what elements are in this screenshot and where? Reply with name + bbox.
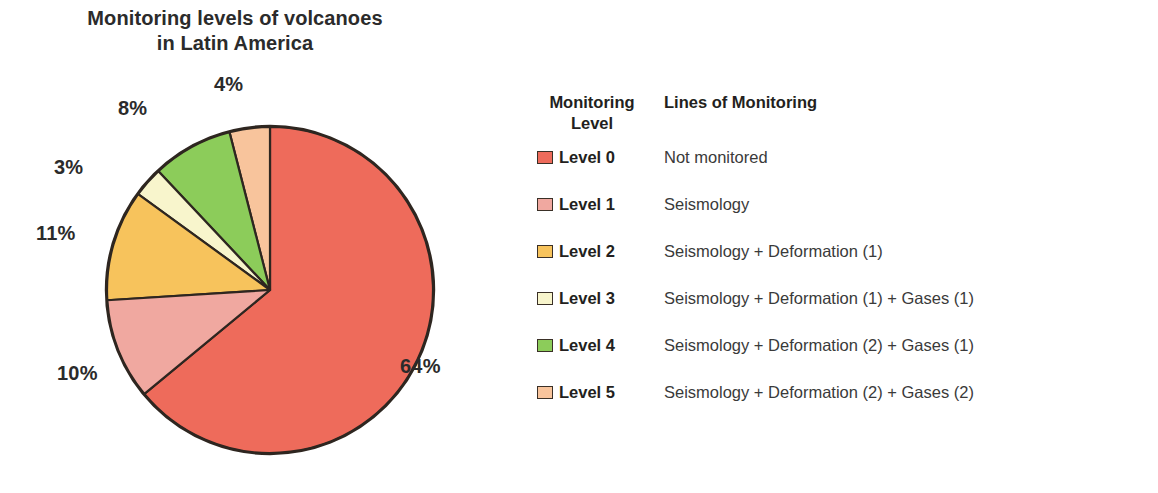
pie-label-level-4: 8%	[118, 97, 147, 120]
legend-level-description: Seismology + Deformation (1) + Gases (1)	[664, 289, 974, 308]
title-line-1: Monitoring levels of volcanoes	[0, 6, 470, 31]
legend-level-label: Level 4	[559, 336, 651, 355]
pie-label-level-0: 64%	[400, 355, 441, 378]
title-line-2: in Latin America	[0, 31, 470, 56]
pie-label-level-1: 10%	[57, 362, 98, 385]
legend-level-description: Seismology + Deformation (2) + Gases (2)	[664, 383, 974, 402]
legend-level-description: Seismology	[664, 195, 749, 214]
legend-level-label: Level 1	[559, 195, 651, 214]
legend-swatch-icon	[537, 198, 553, 211]
pie-label-level-2: 11%	[36, 222, 76, 245]
legend-header-level-line-1: Monitoring	[533, 92, 651, 113]
pie-slice-group	[107, 127, 433, 453]
legend-row[interactable]: Level 5Seismology + Deformation (2) + Ga…	[533, 383, 1143, 430]
legend-row-list: Level 0Not monitoredLevel 1SeismologyLev…	[533, 148, 1143, 430]
pie-label-level-3: 3%	[54, 156, 83, 179]
legend-swatch-icon	[537, 245, 553, 258]
page-title: Monitoring levels of volcanoes in Latin …	[0, 6, 470, 56]
legend-level-description: Seismology + Deformation (1)	[664, 242, 883, 261]
legend-level-label: Level 5	[559, 383, 651, 402]
legend-header-monitoring-level: Monitoring Level	[533, 92, 651, 134]
pie-label-level-5: 4%	[214, 73, 243, 96]
legend-row[interactable]: Level 0Not monitored	[533, 148, 1143, 195]
legend-swatch-icon	[537, 339, 553, 352]
pie-chart-svg	[103, 123, 437, 457]
legend-row[interactable]: Level 4Seismology + Deformation (2) + Ga…	[533, 336, 1143, 383]
legend-row[interactable]: Level 2Seismology + Deformation (1)	[533, 242, 1143, 289]
legend-header-level-line-2: Level	[533, 113, 651, 134]
legend-level-label: Level 0	[559, 148, 651, 167]
pie-chart	[103, 123, 437, 457]
legend-level-description: Seismology + Deformation (2) + Gases (1)	[664, 336, 974, 355]
legend-swatch-icon	[537, 151, 553, 164]
legend-row[interactable]: Level 3Seismology + Deformation (1) + Ga…	[533, 289, 1143, 336]
legend-swatch-icon	[537, 292, 553, 305]
legend-header-lines-of-monitoring: Lines of Monitoring	[664, 92, 817, 113]
legend-swatch-icon	[537, 386, 553, 399]
chart-canvas: Monitoring levels of volcanoes in Latin …	[0, 0, 1158, 493]
legend-level-description: Not monitored	[664, 148, 768, 167]
legend-level-label: Level 3	[559, 289, 651, 308]
legend-header: Monitoring Level Lines of Monitoring	[533, 92, 1143, 148]
legend-row[interactable]: Level 1Seismology	[533, 195, 1143, 242]
legend-level-label: Level 2	[559, 242, 651, 261]
chart-legend: Monitoring Level Lines of Monitoring Lev…	[533, 92, 1143, 430]
